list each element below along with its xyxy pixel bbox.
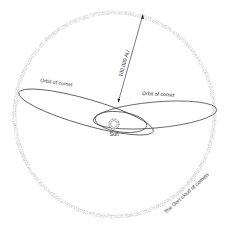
oort-cloud-diagram: 100,000 AU Orbit of comet Orbit of comet… xyxy=(0,0,228,230)
oort-cloud-label: The Oort cloud of comets xyxy=(163,171,211,215)
sun-label: Sun xyxy=(110,131,119,137)
sun-icon xyxy=(109,119,119,129)
orbit-left-label: Orbit of comet xyxy=(40,77,74,88)
distance-label: 100,000 AU xyxy=(117,49,130,77)
oort-cloud-ring xyxy=(15,13,215,217)
comet-orbit-left xyxy=(15,80,157,144)
orbit-right-label: Orbit of comet xyxy=(142,90,175,98)
